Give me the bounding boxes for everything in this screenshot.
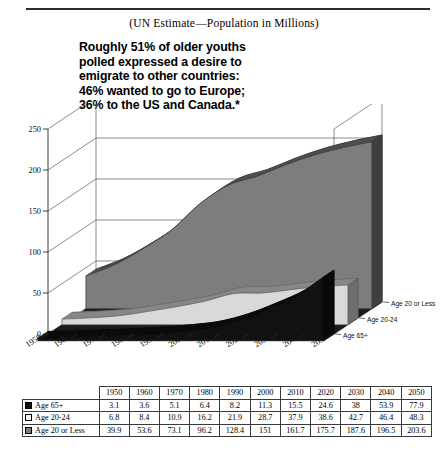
- table-cell: 53.9: [371, 399, 401, 412]
- table-cell: 53.6: [129, 424, 159, 437]
- table-col-header-2050: 2050: [401, 387, 431, 400]
- table-cell: 187.6: [341, 424, 371, 437]
- table-cell: 21.9: [220, 412, 250, 425]
- table-cell: 128.4: [220, 424, 250, 437]
- table-cell: 8.2: [220, 399, 250, 412]
- table-cell: 42.7: [341, 412, 371, 425]
- table-row-label: Age 20 or Less: [23, 424, 100, 437]
- table-row: Age 20 or Less39.953.673.196.2128.415116…: [23, 424, 432, 437]
- table-cell: 196.5: [371, 424, 401, 437]
- legend-leader-line: [383, 302, 389, 303]
- table-col-header-2030: 2030: [341, 387, 371, 400]
- table-cell: 151: [250, 424, 280, 437]
- table-cell: 175.7: [311, 424, 341, 437]
- table-col-header-1970: 1970: [159, 387, 189, 400]
- y-tick-label: 250: [28, 125, 41, 134]
- table-cell: 6.8: [99, 412, 129, 425]
- table-cell: 48.3: [401, 412, 431, 425]
- table-cell: 5.1: [159, 399, 189, 412]
- legend-leader-line: [359, 318, 365, 319]
- table-body: Age 65+3.13.65.16.48.211.315.524.63853.9…: [23, 399, 432, 437]
- y-tick-label: 150: [28, 207, 41, 216]
- page-root: (UN Estimate—Population in Millions) Rou…: [0, 0, 448, 449]
- data-table-wrapper: 1950196019701980199020002010202020302040…: [22, 386, 432, 437]
- legend-leader-line: [335, 334, 341, 335]
- table-row-label-text: Age 65+: [35, 401, 64, 410]
- table-row: Age 65+3.13.65.16.48.211.315.524.63853.9…: [23, 399, 432, 412]
- series-end-cap: [324, 270, 334, 341]
- table-col-header-2010: 2010: [280, 387, 310, 400]
- table-cell: 3.6: [129, 399, 159, 412]
- table-cell: 203.6: [401, 424, 431, 437]
- table-row-label: Age 20-24: [23, 412, 100, 425]
- legend-swatch-icon: [25, 414, 32, 421]
- table-col-header-1950: 1950: [99, 387, 129, 400]
- legend-label: Age 65+: [343, 332, 368, 340]
- y-tick-label: 50: [33, 289, 41, 298]
- table-cell: 46.4: [371, 412, 401, 425]
- callout-annotation: Roughly 51% of older youths polled expre…: [79, 40, 309, 113]
- table-row-label-text: Age 20-24: [35, 413, 70, 422]
- table-cell: 161.7: [280, 424, 310, 437]
- area-chart-3d: 0501001502002501950196019701980199020002…: [0, 104, 448, 372]
- table-cell: 15.5: [280, 399, 310, 412]
- table-cell: 28.7: [250, 412, 280, 425]
- table-cell: 10.9: [159, 412, 189, 425]
- table-cell: 38.6: [311, 412, 341, 425]
- table-cell: 24.6: [311, 399, 341, 412]
- table-col-header-1960: 1960: [129, 387, 159, 400]
- table-corner-cell: [23, 387, 100, 400]
- callout-line-1: Roughly 51% of older youths: [79, 40, 309, 55]
- table-cell: 73.1: [159, 424, 189, 437]
- table-cell: 3.1: [99, 399, 129, 412]
- legend-label: Age 20-24: [367, 316, 398, 324]
- legend-swatch-icon: [25, 427, 32, 434]
- chart-subtitle: (UN Estimate—Population in Millions): [0, 17, 448, 29]
- table-col-header-2000: 2000: [250, 387, 280, 400]
- y-tick-label: 100: [28, 248, 41, 257]
- series-end-cap: [348, 278, 358, 324]
- table-col-header-2020: 2020: [311, 387, 341, 400]
- data-table: 1950196019701980199020002010202020302040…: [22, 386, 432, 437]
- table-header-row: 1950196019701980199020002010202020302040…: [23, 387, 432, 400]
- table-row: Age 20-246.88.410.916.221.928.737.938.64…: [23, 412, 432, 425]
- table-cell: 16.2: [190, 412, 220, 425]
- table-cell: 11.3: [250, 399, 280, 412]
- legend-label: Age 20 or Less: [391, 300, 436, 308]
- table-cell: 77.9: [401, 399, 431, 412]
- table-cell: 8.4: [129, 412, 159, 425]
- table-row-label: Age 65+: [23, 399, 100, 412]
- legend-swatch-icon: [25, 402, 32, 409]
- top-divider-rule: [26, 8, 430, 10]
- callout-line-3: emigrate to other countries:: [79, 69, 309, 84]
- table-col-header-2040: 2040: [371, 387, 401, 400]
- table-cell: 39.9: [99, 424, 129, 437]
- callout-line-2: polled expressed a desire to: [79, 55, 309, 70]
- table-row-label-text: Age 20 or Less: [35, 426, 85, 435]
- table-cell: 38: [341, 399, 371, 412]
- table-col-header-1980: 1980: [190, 387, 220, 400]
- table-cell: 6.4: [190, 399, 220, 412]
- y-axis: 050100150200250: [28, 125, 48, 339]
- y-tick-label: 200: [28, 166, 41, 175]
- table-cell: 96.2: [190, 424, 220, 437]
- table-col-header-1990: 1990: [220, 387, 250, 400]
- table-cell: 37.9: [280, 412, 310, 425]
- series-end-cap: [372, 135, 382, 309]
- callout-line-4: 46% wanted to go to Europe;: [79, 84, 309, 99]
